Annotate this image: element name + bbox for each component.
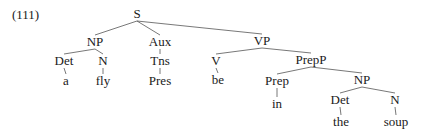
tree-node-n2: N bbox=[390, 93, 399, 107]
tree-node-n1: N bbox=[98, 54, 107, 68]
tree-node-be: be bbox=[212, 73, 224, 87]
tree-node-a: a bbox=[63, 74, 69, 88]
tree-node-prepp: PrepP bbox=[295, 53, 326, 67]
tree-node-soup: soup bbox=[384, 115, 409, 129]
tree-node-tns: Tns bbox=[150, 54, 170, 68]
syntax-tree-diagram: (111) SNPAuxVPDetNTnsaflyPresVbePrepPPre… bbox=[0, 0, 426, 136]
tree-node-det2: Det bbox=[331, 93, 350, 107]
tree-edge bbox=[216, 48, 262, 54]
tree-node-np1: NP bbox=[87, 35, 104, 49]
tree-node-det1: Det bbox=[55, 54, 74, 68]
tree-node-np2: NP bbox=[354, 73, 371, 87]
tree-node-aux: Aux bbox=[149, 35, 171, 49]
tree-node-s: S bbox=[133, 7, 140, 21]
tree-node-fly: fly bbox=[96, 74, 110, 88]
tree-node-in: in bbox=[272, 97, 282, 111]
tree-node-the: the bbox=[333, 115, 349, 129]
tree-node-v: V bbox=[211, 54, 220, 68]
tree-node-pres: Pres bbox=[149, 74, 171, 88]
tree-edges bbox=[0, 0, 426, 136]
tree-node-vp: VP bbox=[254, 34, 271, 48]
tree-edge bbox=[95, 21, 137, 35]
tree-node-prep: Prep bbox=[265, 74, 289, 88]
